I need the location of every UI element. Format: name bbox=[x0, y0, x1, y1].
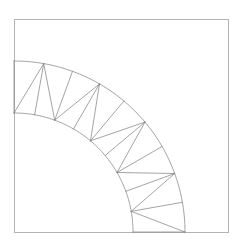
radial-spoke-7 bbox=[126, 174, 175, 192]
inner-arc bbox=[14, 113, 133, 232]
figure-frame bbox=[15, 20, 229, 233]
cell-diagonal-3 bbox=[90, 84, 99, 141]
radial-spoke-6 bbox=[117, 147, 162, 173]
radial-spoke-8 bbox=[131, 202, 182, 211]
radial-spoke-5 bbox=[105, 122, 145, 155]
cell-diagonal-5 bbox=[117, 122, 145, 172]
mesh-figure-canvas bbox=[0, 0, 241, 245]
cell-diagonal-1 bbox=[44, 64, 55, 121]
figure-root bbox=[0, 0, 241, 245]
annulus-mesh-group bbox=[14, 61, 185, 232]
cell-diagonal-6 bbox=[117, 173, 175, 174]
cell-diagonal-8 bbox=[131, 211, 185, 232]
cell-diagonal-7 bbox=[131, 174, 175, 212]
